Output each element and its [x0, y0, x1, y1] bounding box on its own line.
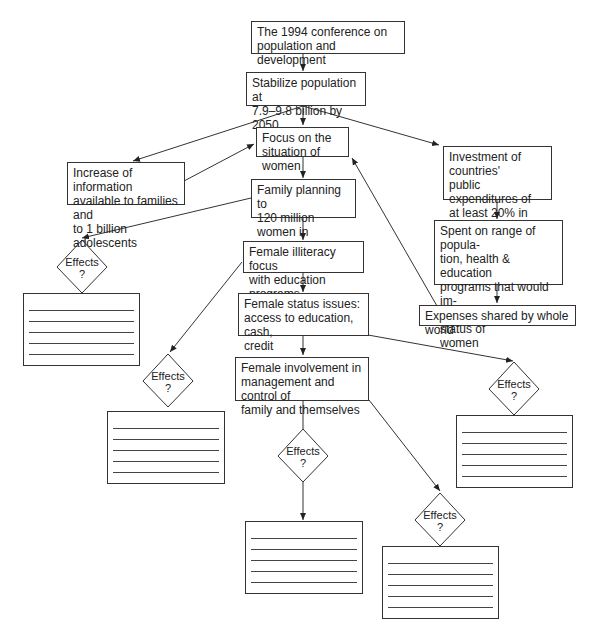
effects-notes-box-4 [245, 521, 363, 594]
node-spent-line: women [440, 336, 557, 350]
node-involvement-line: family and themselves [241, 403, 363, 417]
effects-question: ? [143, 382, 193, 394]
node-information: Increase of information available to fam… [67, 162, 185, 205]
effects-label: Effects [278, 445, 328, 457]
node-focus-line: situation of women [262, 145, 343, 173]
node-conference-line: The 1994 conference on [257, 25, 399, 39]
effects-question: ? [57, 268, 107, 280]
node-expenses: Expenses shared by whole world [419, 305, 576, 326]
node-expenses-line: Expenses shared by whole world [425, 309, 570, 337]
node-information-line: available to families and [73, 194, 179, 222]
node-conference: The 1994 conference on population and de… [251, 21, 405, 54]
node-investment-line: public expenditures of [449, 178, 546, 206]
effects-diamond-4: Effects ? [278, 445, 328, 469]
effects-question: ? [415, 521, 465, 533]
effects-diamond-2: Effects ? [143, 370, 193, 394]
effects-diamond-5: Effects ? [415, 509, 465, 533]
node-focus-line: Focus on the [262, 131, 343, 145]
node-stabilize-line: Stabilize population at [252, 76, 360, 104]
node-spent-line: Spent on range of popula- [440, 224, 557, 252]
effects-notes-box-1 [23, 293, 140, 366]
effects-diamond-1: Effects ? [57, 256, 107, 280]
effects-label: Effects [57, 256, 107, 268]
node-spent-line: tion, health & education [440, 252, 557, 280]
node-stabilize: Stabilize population at 7.9–9.8 billion … [246, 72, 366, 106]
node-family-planning: Family planning to 120 million women in … [251, 179, 356, 218]
node-illiteracy-line: Female illiteracy focus [249, 245, 358, 273]
node-status: Female status issues: access to educatio… [238, 293, 369, 336]
effects-label: Effects [415, 509, 465, 521]
effects-notes-box-5 [382, 546, 499, 619]
node-status-line: credit [244, 339, 363, 353]
node-status-line: Female status issues: [244, 297, 363, 311]
effects-question: ? [489, 390, 539, 402]
node-conference-line: population and development [257, 39, 399, 67]
node-family-planning-line: 120 million women in [257, 211, 350, 239]
node-investment-line: Investment of countries' [449, 150, 546, 178]
node-information-line: to 1 billion adolescents [73, 222, 179, 250]
effects-notes-box-2 [107, 411, 225, 484]
node-illiteracy: Female illiteracy focus with education p… [243, 241, 364, 273]
node-focus: Focus on the situation of women [256, 127, 349, 157]
effects-label: Effects [489, 378, 539, 390]
node-information-line: Increase of information [73, 166, 179, 194]
node-involvement-line: Female involvement in [241, 361, 363, 375]
node-family-planning-line: Family planning to [257, 183, 350, 211]
node-investment: Investment of countries' public expendit… [443, 146, 552, 200]
effects-notes-box-3 [456, 415, 573, 488]
effects-label: Effects [143, 370, 193, 382]
effects-question: ? [278, 457, 328, 469]
effects-diamond-3: Effects ? [489, 378, 539, 402]
node-involvement-line: management and control of [241, 375, 363, 403]
node-involvement: Female involvement in management and con… [235, 357, 369, 401]
node-spent: Spent on range of popula- tion, health &… [434, 220, 563, 285]
node-spent-line: programs that would im- [440, 280, 557, 308]
node-status-line: access to education, cash, [244, 311, 363, 339]
